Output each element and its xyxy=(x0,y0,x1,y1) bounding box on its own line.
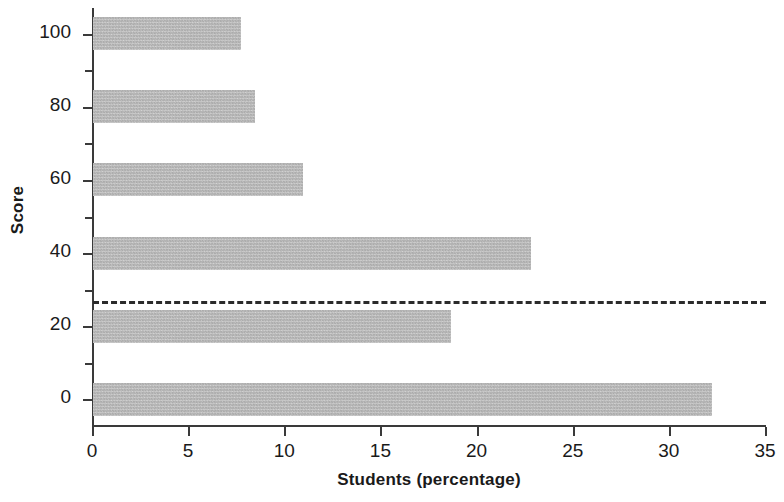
x-axis-title: Students (percentage) xyxy=(92,470,766,490)
bar xyxy=(93,17,241,50)
y-axis-line xyxy=(92,8,94,427)
y-axis-tick-minor xyxy=(85,363,92,365)
x-axis-tick xyxy=(380,427,382,436)
x-axis-tick-label: 0 xyxy=(87,440,98,462)
bar xyxy=(93,237,531,270)
x-axis-tick xyxy=(92,427,94,436)
bar xyxy=(93,163,303,196)
x-axis-tick-label: 30 xyxy=(658,440,679,462)
y-axis-tick-major: 60 xyxy=(83,180,92,182)
plot-area: 020406080100 05101520253035 xyxy=(92,8,766,427)
y-axis-tick-minor xyxy=(85,290,92,292)
x-axis-tick xyxy=(477,427,479,436)
y-axis-tick-major: 100 xyxy=(83,34,92,36)
y-axis-tick-major: 80 xyxy=(83,107,92,109)
y-axis-tick-label: 40 xyxy=(11,240,71,262)
y-axis-tick-major: 0 xyxy=(83,399,92,401)
chart-figure: Score 020406080100 05101520253035 Studen… xyxy=(0,0,784,502)
y-axis-tick-label: 20 xyxy=(11,313,71,335)
bar xyxy=(93,310,451,343)
x-axis-tick xyxy=(284,427,286,436)
x-axis-tick xyxy=(669,427,671,436)
y-axis-tick-minor xyxy=(85,217,92,219)
y-axis-tick-label: 60 xyxy=(11,167,71,189)
y-axis-tick-minor xyxy=(85,143,92,145)
bar xyxy=(93,383,712,416)
y-axis-tick-label: 80 xyxy=(11,94,71,116)
y-axis-tick-label: 0 xyxy=(11,386,71,408)
x-axis-tick-label: 35 xyxy=(754,440,775,462)
x-axis-tick xyxy=(765,427,767,436)
x-axis-tick xyxy=(573,427,575,436)
y-axis-tick-major: 20 xyxy=(83,326,92,328)
reference-line-dashed xyxy=(93,301,766,304)
y-axis-tick-label: 100 xyxy=(11,21,71,43)
x-axis-tick xyxy=(188,427,190,436)
y-axis-tick-major: 40 xyxy=(83,253,92,255)
x-axis-tick-label: 25 xyxy=(562,440,583,462)
x-axis-line xyxy=(92,425,766,427)
x-axis-tick-label: 20 xyxy=(466,440,487,462)
x-axis-tick-label: 15 xyxy=(370,440,391,462)
x-axis-tick-label: 10 xyxy=(274,440,295,462)
y-axis-tick-minor xyxy=(85,70,92,72)
bar xyxy=(93,90,255,123)
x-axis-tick-label: 5 xyxy=(183,440,194,462)
